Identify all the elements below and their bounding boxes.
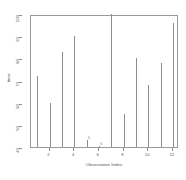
x-axis-tick-label: 4: [72, 153, 74, 157]
y-axis-tick-label: 40: [16, 148, 20, 153]
y-axis: time 405060708090100: [0, 0, 30, 180]
bar-line: [74, 36, 75, 147]
y-axis-tick-label: 70: [16, 82, 20, 87]
x-axis-tick-label: 2: [47, 153, 49, 157]
plot-area: 56: [30, 15, 178, 148]
bar-line: [111, 14, 112, 147]
y-axis-title: time: [6, 73, 11, 82]
y-axis-tick-label: 50: [16, 126, 20, 131]
bar-line: [50, 103, 51, 147]
y-axis-tick-label: 60: [16, 104, 20, 109]
bar-line: [124, 114, 125, 147]
y-axis-tick-label: 80: [16, 59, 20, 64]
bar-line: [148, 85, 149, 147]
bar-line: [62, 52, 63, 147]
x-axis-tick: [172, 148, 173, 151]
bars-layer: 56: [31, 16, 177, 147]
bar-line: [173, 23, 174, 147]
bar-line: [161, 63, 162, 147]
x-axis-tick: [147, 148, 148, 151]
chart-container: time 405060708090100 56 Observation Inde…: [0, 0, 186, 180]
x-axis-tick-label: 8: [121, 153, 123, 157]
x-axis-tick: [49, 148, 50, 151]
x-axis-tick-label: 12: [169, 153, 174, 157]
bar-line: [136, 58, 137, 147]
x-axis-tick-label: 10: [145, 153, 150, 157]
y-axis-tick-label: 100: [16, 15, 20, 22]
x-axis-title: Observation Index: [86, 162, 123, 167]
x-axis-tick: [73, 148, 74, 151]
x-axis-tick-label: 6: [97, 153, 99, 157]
point-label: 6: [100, 143, 102, 146]
y-axis-tick-label: 90: [16, 37, 20, 42]
x-axis: Observation Index 24681012: [30, 148, 178, 180]
x-axis-tick: [123, 148, 124, 151]
x-axis-tick: [98, 148, 99, 151]
bar-line: [87, 140, 88, 147]
bar-line: [37, 76, 38, 147]
point-label: 5: [88, 137, 90, 140]
